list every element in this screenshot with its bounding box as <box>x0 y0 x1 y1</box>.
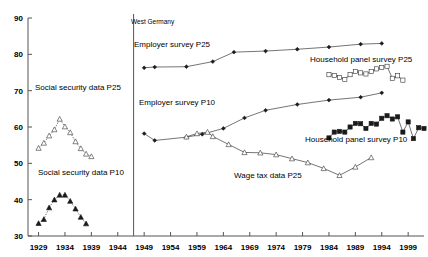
data-point-marker <box>327 73 331 77</box>
y-tick-80: 80 <box>14 50 23 59</box>
data-point-marker <box>353 121 357 125</box>
x-tick-1939: 1939 <box>82 243 100 252</box>
data-point-marker <box>41 140 46 145</box>
ann-wage-tax-p25: Wage tax data P25 <box>234 171 302 180</box>
data-point-marker <box>417 126 421 130</box>
data-point-marker <box>327 98 331 102</box>
y-axis-tick-labels: 30405060708090 <box>14 14 32 241</box>
data-point-marker <box>411 137 415 141</box>
data-point-marker <box>359 42 363 46</box>
data-point-marker <box>369 155 374 160</box>
data-point-marker <box>380 65 384 69</box>
data-point-marker <box>41 217 46 222</box>
ann-social-security-p25: Social security data P25 <box>35 83 121 92</box>
data-point-marker <box>47 205 52 210</box>
data-point-marker <box>73 139 78 144</box>
data-point-marker <box>343 77 347 81</box>
x-tick-1954: 1954 <box>162 243 180 252</box>
data-point-marker <box>359 95 363 99</box>
data-point-marker <box>359 71 363 75</box>
x-tick-1934: 1934 <box>56 243 74 252</box>
x-tick-1944: 1944 <box>109 243 127 252</box>
data-point-marker <box>205 129 210 134</box>
chart-plot-area: 30405060708090 1929193419391944194919541… <box>0 0 428 257</box>
data-point-marker <box>264 108 268 112</box>
data-point-marker <box>385 64 389 68</box>
data-point-marker <box>153 139 157 143</box>
y-tick-70: 70 <box>14 87 23 96</box>
data-point-marker <box>52 127 57 132</box>
data-point-marker <box>142 66 146 70</box>
data-point-marker <box>359 122 363 126</box>
ann-household-p10: Household panel survey P10 <box>305 135 408 144</box>
data-point-marker <box>221 127 225 131</box>
data-point-marker <box>390 117 394 121</box>
data-point-marker <box>369 121 373 125</box>
data-point-marker <box>47 133 52 138</box>
data-point-marker <box>401 78 405 82</box>
ann-employer-p10: Employer survey P10 <box>139 98 216 107</box>
data-point-marker <box>83 151 88 156</box>
data-point-marker <box>332 73 336 77</box>
x-tick-1999: 1999 <box>399 243 417 252</box>
data-point-marker <box>374 67 378 71</box>
series-social-security-data-p25 <box>36 116 94 158</box>
data-point-marker <box>78 146 83 151</box>
data-point-marker <box>396 74 400 78</box>
data-point-marker <box>422 126 426 130</box>
y-tick-90: 90 <box>14 14 23 23</box>
data-point-marker <box>36 221 41 226</box>
data-point-marker <box>401 130 405 134</box>
data-point-marker <box>73 206 78 211</box>
data-point-marker <box>295 47 299 51</box>
data-point-marker <box>380 116 384 120</box>
data-point-marker <box>348 73 352 77</box>
y-tick-30: 30 <box>14 232 23 241</box>
data-point-marker <box>36 145 41 150</box>
data-point-marker <box>406 120 410 124</box>
data-point-marker <box>380 42 384 46</box>
data-point-marker <box>337 173 342 178</box>
data-point-marker <box>185 65 189 69</box>
data-point-marker <box>78 215 83 220</box>
ann-west-germany: West Germany <box>131 18 175 26</box>
data-point-marker <box>57 192 62 197</box>
data-point-marker <box>353 69 357 73</box>
ann-household-p25: Household panel survey P25 <box>310 55 413 64</box>
x-tick-1994: 1994 <box>373 243 391 252</box>
x-tick-1979: 1979 <box>294 243 312 252</box>
data-point-marker <box>62 124 67 129</box>
data-point-marker <box>390 76 394 80</box>
data-point-marker <box>332 130 336 134</box>
data-point-marker <box>364 126 368 130</box>
data-point-marker <box>327 45 331 49</box>
y-tick-60: 60 <box>14 123 23 132</box>
data-point-marker <box>369 69 373 73</box>
ann-employer-p25: Employer survey P25 <box>134 40 211 49</box>
x-tick-1984: 1984 <box>320 243 338 252</box>
x-tick-1969: 1969 <box>241 243 259 252</box>
data-point-marker <box>396 115 400 119</box>
x-tick-1989: 1989 <box>346 243 364 252</box>
data-point-marker <box>380 91 384 95</box>
data-point-marker <box>89 154 94 159</box>
y-tick-40: 40 <box>14 196 23 205</box>
data-point-marker <box>264 49 268 53</box>
data-point-marker <box>385 114 389 118</box>
data-point-marker <box>142 132 146 136</box>
data-point-marker <box>211 60 215 64</box>
x-tick-1959: 1959 <box>188 243 206 252</box>
data-point-marker <box>226 142 231 147</box>
data-point-marker <box>364 72 368 76</box>
data-point-marker <box>295 103 299 107</box>
series-household-panel-survey-p25 <box>327 64 405 82</box>
y-tick-50: 50 <box>14 159 23 168</box>
data-point-marker <box>321 166 326 171</box>
data-point-marker <box>243 116 247 120</box>
data-point-marker <box>348 125 352 129</box>
data-point-marker <box>353 164 358 169</box>
x-tick-1929: 1929 <box>30 243 48 252</box>
data-point-marker <box>232 50 236 54</box>
chart-series-group <box>36 42 426 226</box>
data-point-marker <box>68 199 73 204</box>
